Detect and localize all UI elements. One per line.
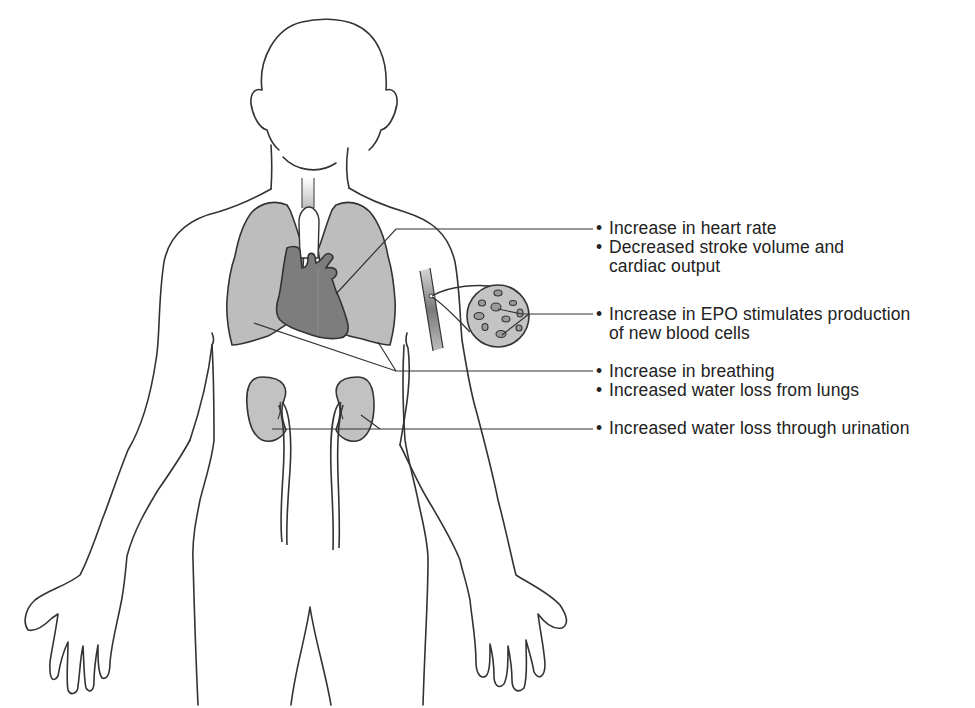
- head-outline: [251, 19, 397, 150]
- blood-label-1: • Increase in EPO stimulates production: [596, 305, 910, 324]
- heart-label-2-continuation: cardiac output: [596, 257, 844, 276]
- neck-right: [347, 148, 349, 188]
- kidneys-label-1: • Increased water loss through urination: [596, 419, 910, 438]
- heart-label-2: • Decreased stroke volume and: [596, 238, 844, 257]
- bullet-icon: •: [596, 381, 602, 400]
- blood-label-group: • Increase in EPO stimulates production …: [596, 305, 910, 343]
- trachea: [299, 178, 319, 258]
- blood-cells-magnified: [432, 285, 529, 347]
- heart-label-group: • Increase in heart rate • Decreased str…: [596, 219, 844, 276]
- bullet-icon: •: [596, 362, 602, 381]
- kidneys-label-group: • Increased water loss through urination: [596, 419, 910, 438]
- lungs-label-1: • Increase in breathing: [596, 362, 859, 381]
- kidneys: [247, 377, 374, 550]
- left-torso-side: [193, 345, 214, 705]
- heart-label-1: • Increase in heart rate: [596, 219, 844, 238]
- bullet-icon: •: [596, 219, 602, 238]
- body-diagram: [0, 0, 975, 708]
- left-inner-arm: [190, 333, 214, 440]
- crotch-line: [291, 607, 331, 705]
- body-outline: [25, 19, 566, 705]
- lungs-label-group: • Increase in breathing • Increased wate…: [596, 362, 859, 400]
- bullet-icon: •: [596, 305, 602, 324]
- jaw-curve: [283, 157, 336, 170]
- arm-blood-vessel: [420, 268, 443, 351]
- lungs-label-2: • Increased water loss from lungs: [596, 381, 859, 400]
- bullet-icon: •: [596, 238, 602, 257]
- neck-left: [271, 145, 272, 189]
- blood-label-1-continuation: of new blood cells: [596, 324, 910, 343]
- bullet-icon: •: [596, 419, 602, 438]
